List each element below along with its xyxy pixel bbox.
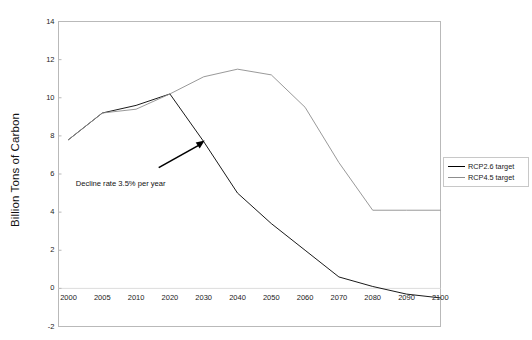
x-tick-label: 2070 (324, 294, 354, 302)
legend-line-swatch-icon (448, 166, 465, 167)
annotation-label: Decline rate 3.5% per year (76, 179, 166, 188)
annotation-arrow (159, 141, 205, 168)
y-tick-label: 6 (33, 170, 55, 178)
legend-label: RCP2.6 target (468, 162, 514, 171)
legend-line-swatch-icon (448, 177, 465, 178)
y-tick-label: 0 (33, 284, 55, 292)
y-tick-label: 10 (33, 94, 55, 102)
x-tick-label: 2030 (189, 294, 219, 302)
axis-frame (59, 22, 441, 327)
legend-item-rcp45[interactable]: RCP4.5 target (446, 172, 526, 183)
y-tick-label: 8 (33, 132, 55, 140)
legend-label: RCP4.5 target (468, 173, 514, 182)
y-tick-label: 4 (33, 208, 55, 216)
x-tick-label: 2000 (54, 294, 84, 302)
x-tick-label: 2010 (121, 294, 151, 302)
x-tick-label: 2020 (155, 294, 185, 302)
y-tick-label: 12 (33, 56, 55, 64)
x-tick-label: 2050 (256, 294, 286, 302)
y-tick-label: 14 (33, 18, 55, 26)
chart-figure: Billion Tons of Carbon -202468101214 200… (0, 0, 532, 340)
x-tick-label: 2090 (392, 294, 422, 302)
chart-legend: RCP2.6 target RCP4.5 target (443, 157, 529, 187)
x-tick-label: 2060 (290, 294, 320, 302)
x-tick-label: 2080 (358, 294, 388, 302)
x-tick-label: 2005 (87, 294, 117, 302)
legend-item-rcp26[interactable]: RCP2.6 target (446, 161, 526, 172)
x-tick-label: 2040 (223, 294, 253, 302)
y-tick-label: -2 (33, 323, 55, 331)
y-tick-label: 2 (33, 246, 55, 254)
x-tick-label: 2100 (425, 294, 455, 302)
